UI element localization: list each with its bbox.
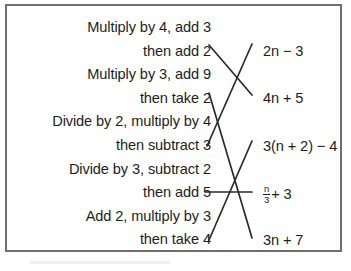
- fraction-suffix: + 3: [271, 186, 291, 202]
- fraction: n 3: [263, 184, 270, 204]
- expression-item: 4n + 5: [263, 90, 303, 106]
- instruction-line: Divide by 2, multiply by 4: [15, 110, 211, 134]
- instruction-line: Multiply by 4, add 3: [15, 16, 211, 40]
- instruction-line: Divide by 3, subtract 2: [15, 158, 211, 182]
- expression-item: 2n − 3: [263, 43, 303, 59]
- screenshot-root: Multiply by 4, add 3 then add 2 Multiply…: [0, 0, 351, 271]
- matching-exercise-panel: Multiply by 4, add 3 then add 2 Multiply…: [5, 4, 342, 252]
- instruction-line: then add 5: [15, 181, 211, 205]
- expression-item-fraction: n 3 + 3: [263, 185, 292, 205]
- instruction-line: then take 2: [15, 87, 211, 111]
- scan-artifact: [30, 261, 170, 264]
- fraction-denominator: 3: [263, 194, 270, 205]
- fraction-numerator: n: [263, 184, 270, 194]
- instruction-line: Add 2, multiply by 3: [15, 205, 211, 229]
- instruction-column: Multiply by 4, add 3 then add 2 Multiply…: [15, 16, 211, 252]
- instruction-line: then take 4: [15, 228, 211, 252]
- instruction-line: then add 2: [15, 40, 211, 64]
- instruction-line: then subtract 3: [15, 134, 211, 158]
- instruction-line: Multiply by 3, add 9: [15, 63, 211, 87]
- expression-item: 3n + 7: [263, 232, 303, 248]
- expression-item: 3(n + 2) − 4: [263, 138, 337, 154]
